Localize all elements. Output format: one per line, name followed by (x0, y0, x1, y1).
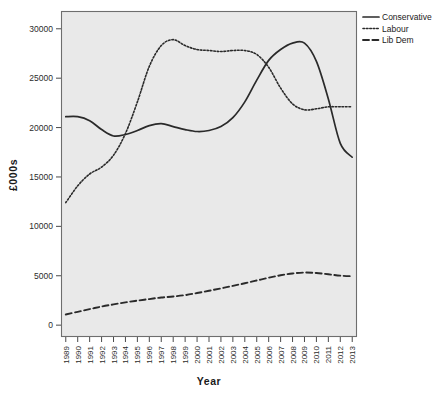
y-axis-title: £000s (7, 159, 19, 191)
x-tick-label: 2012 (336, 345, 345, 363)
x-tick-label: 1990 (74, 345, 83, 363)
x-tick-label: 2006 (265, 345, 274, 363)
chart-canvas: 050001000015000200002500030000 198919901… (0, 0, 440, 395)
y-tick-label: 30000 (29, 24, 53, 34)
x-tick-label: 1999 (181, 345, 190, 363)
x-tick-label: 1994 (121, 345, 130, 363)
x-tick-label: 2007 (277, 345, 286, 363)
x-tick-label: 2002 (217, 345, 226, 363)
x-tick-label: 1998 (169, 345, 178, 363)
x-tick-label: 1996 (145, 345, 154, 363)
x-tick-label: 1997 (157, 345, 166, 363)
x-tick-label: 2011 (324, 345, 333, 363)
legend-label-conservative: Conservative (382, 12, 432, 22)
x-axis-title: Year (197, 375, 222, 387)
x-tick-label: 2001 (205, 345, 214, 363)
y-tick-label: 10000 (29, 221, 53, 231)
x-tick-label: 2010 (312, 345, 321, 363)
y-tick-label: 15000 (29, 172, 53, 182)
y-tick-label: 25000 (29, 73, 53, 83)
x-tick-label: 1993 (110, 345, 119, 363)
x-tick-label: 2005 (253, 345, 262, 363)
y-tick-label: 20000 (29, 123, 53, 133)
y-tick-label: 5000 (34, 271, 53, 281)
x-tick-label: 2013 (348, 345, 357, 363)
line-chart: 050001000015000200002500030000 198919901… (0, 0, 440, 395)
x-tick-label: 1992 (98, 345, 107, 363)
x-tick-label: 2008 (289, 345, 298, 363)
x-tick-label: 1989 (62, 345, 71, 363)
legend-label-labour: Labour (382, 24, 409, 34)
x-tick-label: 2004 (241, 345, 250, 363)
x-tick-label: 1991 (86, 345, 95, 363)
x-tick-label: 2009 (300, 345, 309, 363)
plot-area-background (61, 11, 357, 337)
y-tick-label: 0 (48, 320, 53, 330)
x-tick-label: 1995 (133, 345, 142, 363)
legend-label-lib-dem: Lib Dem (382, 35, 414, 45)
x-tick-label: 2003 (229, 345, 238, 363)
x-tick-label: 2000 (193, 345, 202, 363)
